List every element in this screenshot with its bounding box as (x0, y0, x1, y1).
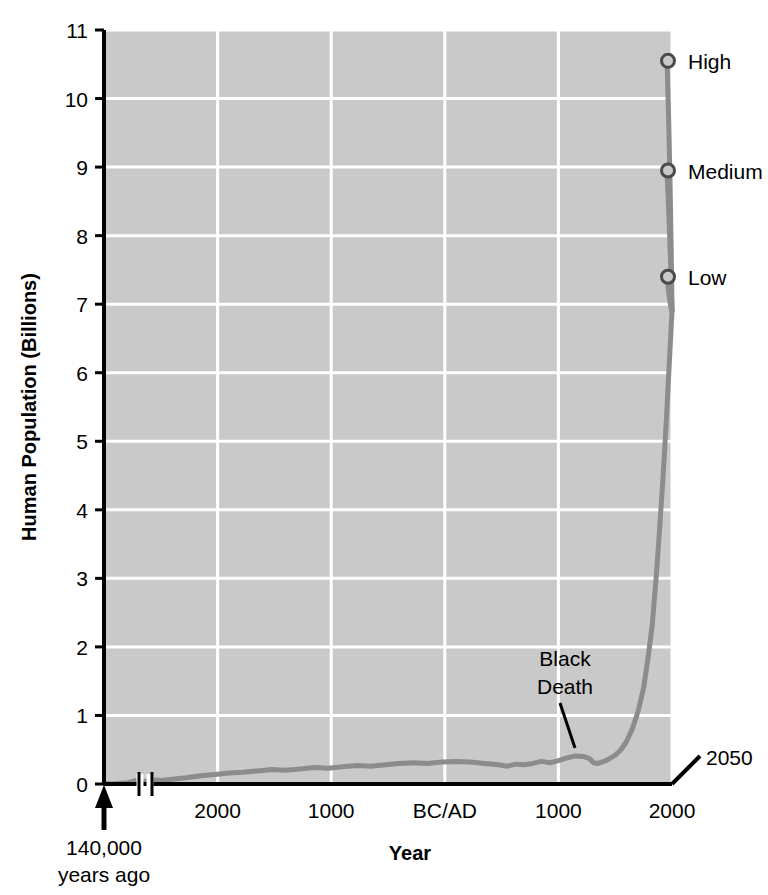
y-tick-label-1: 1 (76, 704, 88, 727)
x-axis-tick-labels: 20001000BC/AD10002000 (194, 799, 695, 822)
x-tick-label-3: 1000 (535, 799, 582, 822)
y-tick-label-9: 9 (76, 156, 88, 179)
x-tick-label-4: 2000 (649, 799, 696, 822)
end-year-label: 2050 (706, 746, 753, 769)
plot-background (104, 30, 672, 784)
y-tick-label-0: 0 (76, 773, 88, 796)
y-tick-label-10: 10 (65, 88, 88, 111)
projection-marker-high (662, 54, 675, 67)
black-death-label-line1: Black (539, 647, 591, 670)
black-death-label-line2: Death (537, 675, 593, 698)
y-tick-label-3: 3 (76, 567, 88, 590)
y-tick-label-5: 5 (76, 430, 88, 453)
projection-marker-medium (662, 164, 675, 177)
x-axis-extension-2050 (672, 756, 700, 784)
projection-label-medium: Medium (688, 160, 763, 183)
origin-annotation-line2: years ago (58, 863, 150, 886)
y-tick-label-8: 8 (76, 225, 88, 248)
y-tick-label-4: 4 (76, 499, 88, 522)
origin-arrow-icon (95, 785, 113, 830)
x-tick-label-1: 1000 (308, 799, 355, 822)
y-axis-ticks: 01234567891011 (65, 19, 104, 796)
chart-figure: 01234567891011 20001000BC/AD10002000 Hum… (0, 0, 768, 895)
x-axis-title: Year (389, 842, 431, 864)
x-tick-label-0: 2000 (194, 799, 241, 822)
y-axis-title: Human Population (Billions) (18, 273, 40, 541)
y-tick-label-6: 6 (76, 362, 88, 385)
y-tick-label-7: 7 (76, 293, 88, 316)
projection-marker-low (662, 270, 675, 283)
projection-label-high: High (688, 50, 731, 73)
y-tick-label-11: 11 (66, 19, 88, 42)
y-tick-label-2: 2 (76, 636, 88, 659)
x-tick-label-2: BC/AD (413, 799, 477, 822)
population-chart: 01234567891011 20001000BC/AD10002000 Hum… (0, 0, 768, 895)
projection-label-low: Low (688, 266, 727, 289)
origin-annotation-line1: 140,000 (66, 836, 142, 859)
projection-markers: HighMediumLow (662, 50, 763, 289)
